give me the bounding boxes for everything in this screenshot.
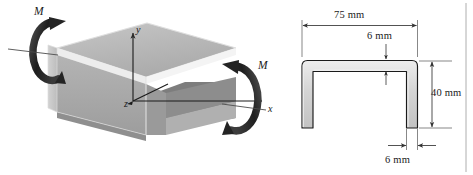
dimension-label-flange-thickness: 6 mm <box>367 31 392 42</box>
figure-graphics <box>0 0 473 175</box>
axis-label-x: x <box>268 104 272 114</box>
moment-label-left: M <box>34 6 44 18</box>
dimension-label-width: 75 mm <box>334 10 364 21</box>
moment-label-right: M <box>258 60 268 72</box>
beam-web-face <box>146 84 166 135</box>
isometric-beam-group <box>8 17 266 141</box>
dimension-label-height: 40 mm <box>431 88 461 99</box>
figure-canvas: M M y x z 75 mm 6 mm 40 mm 6 mm <box>0 0 473 175</box>
axis-label-y: y <box>136 25 140 35</box>
dimension-label-web-thickness: 6 mm <box>385 155 410 166</box>
axis-label-z: z <box>124 99 128 109</box>
